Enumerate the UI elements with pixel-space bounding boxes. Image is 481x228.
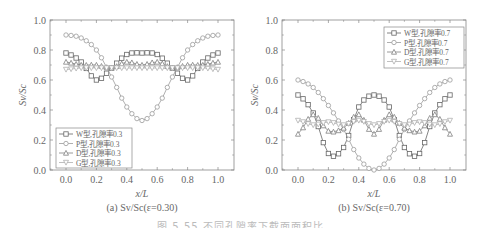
circle-marker: [145, 116, 149, 120]
square-marker: [306, 102, 310, 106]
x-tick-label: 0.0: [60, 174, 73, 185]
circle-marker: [94, 48, 98, 52]
circle-marker: [397, 137, 401, 141]
y-tick-label: 0.8: [34, 45, 47, 56]
square-marker: [301, 97, 305, 101]
square-marker: [120, 56, 124, 60]
triangle-up-marker: [316, 115, 321, 120]
circle-marker: [114, 85, 118, 89]
triangle-up-marker: [442, 125, 447, 130]
circle-marker: [346, 137, 350, 141]
y-axis-label: Sv/Sc: [249, 84, 260, 106]
chart-panel-a: 0.00.20.40.60.81.00.00.20.40.60.81.0x/LS…: [17, 15, 234, 215]
square-marker: [140, 51, 144, 55]
y-tick-label: 0.8: [266, 45, 279, 56]
circle-marker: [362, 162, 366, 166]
series-triangle-down: [64, 66, 221, 72]
y-tick-label: 1.0: [266, 15, 279, 26]
y-tick-label: 0.2: [34, 135, 47, 146]
circle-marker: [206, 34, 210, 38]
y-tick-label: 0.0: [34, 165, 47, 176]
circle-marker: [190, 42, 194, 46]
triangle-up-marker: [427, 115, 432, 120]
triangle-up-marker: [216, 59, 221, 64]
triangle-up-marker: [124, 59, 129, 64]
triangle-up-marker: [387, 112, 392, 117]
legend-entry: P型,孔隙率0.7: [404, 38, 448, 48]
circle-marker: [150, 112, 154, 116]
circle-marker: [79, 36, 83, 40]
triangle-down-marker: [442, 120, 447, 125]
legend-entry: G型,孔隙率0.7: [404, 57, 449, 67]
triangle-down-marker: [372, 123, 377, 128]
square-marker: [160, 56, 164, 60]
square-marker: [321, 140, 325, 144]
square-marker: [69, 53, 73, 57]
square-marker: [206, 56, 210, 60]
square-marker: [180, 76, 184, 80]
square-marker: [74, 56, 78, 60]
y-tick-label: 0.4: [266, 105, 279, 116]
y-tick-label: 0.2: [266, 135, 279, 146]
x-tick-label: 0.6: [383, 174, 396, 185]
legend-entry: P型,孔隙率0.3: [76, 139, 120, 149]
circle-marker: [180, 56, 184, 60]
x-tick-label: 1.0: [444, 174, 457, 185]
y-tick-label: 0.6: [266, 75, 279, 86]
square-marker: [175, 71, 179, 75]
circle-marker: [417, 103, 421, 107]
square-marker: [407, 152, 411, 156]
circle-marker: [443, 79, 447, 83]
triangle-up-marker: [407, 128, 412, 133]
triangle-up-marker: [301, 125, 306, 130]
y-tick-label: 1.0: [34, 15, 47, 26]
circle-marker: [74, 34, 78, 38]
triangle-down-marker: [432, 123, 437, 128]
triangle-up-marker: [155, 59, 160, 64]
square-marker: [438, 102, 442, 106]
circle-marker: [387, 156, 391, 160]
circle-marker: [296, 78, 300, 82]
square-marker: [155, 52, 159, 56]
square-marker: [104, 71, 108, 75]
panel-title: (b) Sv/Sc(ε=0.70): [338, 202, 410, 214]
circle-marker: [382, 162, 386, 166]
square-marker: [150, 51, 154, 55]
circle-marker: [165, 85, 169, 89]
square-marker: [412, 154, 416, 158]
circle-marker: [367, 166, 371, 170]
legend-entry: W型,孔隙率0.7: [404, 28, 451, 38]
circle-marker: [155, 105, 159, 109]
legend-entry: D型,孔隙率0.3: [76, 148, 121, 158]
square-marker: [372, 93, 376, 97]
square-marker: [99, 76, 103, 80]
circle-marker: [316, 90, 320, 94]
square-marker: [402, 145, 406, 149]
chart-panel-b: 0.00.20.40.60.81.00.00.20.40.60.81.0x/LS…: [249, 15, 466, 215]
square-marker: [211, 53, 215, 57]
triangle-up-marker: [336, 128, 341, 133]
square-marker: [357, 105, 361, 109]
legend-entry: D型,孔隙率0.7: [404, 47, 449, 57]
circle-marker: [140, 118, 144, 122]
circle-marker: [433, 85, 437, 89]
square-marker: [336, 152, 340, 156]
circle-marker: [89, 42, 93, 46]
y-tick-label: 0.6: [34, 75, 47, 86]
square-marker: [377, 94, 381, 98]
circle-marker: [211, 33, 215, 37]
circle-marker: [216, 33, 220, 37]
square-marker: [216, 51, 220, 55]
circle-marker: [412, 111, 416, 115]
square-marker: [417, 151, 421, 155]
square-marker: [443, 97, 447, 101]
circle-marker: [392, 147, 396, 151]
figure: 0.00.20.40.60.81.00.00.20.40.60.81.0x/LS…: [0, 0, 481, 228]
circle-marker: [84, 39, 88, 43]
circle-marker: [392, 40, 396, 44]
circle-marker: [185, 48, 189, 52]
circle-marker: [326, 103, 330, 107]
circle-marker: [438, 82, 442, 86]
square-marker: [94, 78, 98, 82]
circle-marker: [301, 79, 305, 83]
